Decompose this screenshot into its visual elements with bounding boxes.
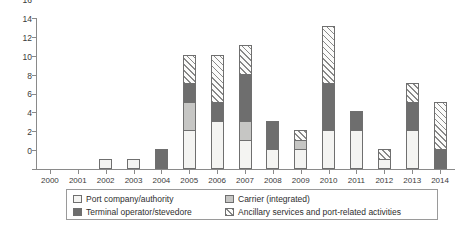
bar-segment-terminal	[183, 83, 196, 103]
bar-column	[239, 46, 252, 169]
chart-legend: Port company/authority Carrier (integrat…	[66, 189, 438, 220]
bar-segment-port	[378, 159, 391, 169]
legend-item-terminal-operator-stevedore: Terminal operator/stevedore	[73, 208, 225, 217]
x-axis-tick-label: 2014	[426, 176, 454, 185]
x-axis-tick-mark	[78, 170, 79, 174]
bar-segment-ancillary	[322, 26, 335, 84]
y-axis-tick-mark	[32, 94, 36, 95]
x-axis-tick-label: 2001	[64, 176, 92, 185]
x-axis-tick-label: 2012	[370, 176, 398, 185]
bar-segment-port	[239, 140, 252, 169]
x-axis-tick-label: 2013	[398, 176, 426, 185]
bar-column	[155, 150, 168, 169]
x-axis-tick-mark	[301, 170, 302, 174]
x-axis-tick-label: 2007	[231, 176, 259, 185]
bar-segment-terminal	[406, 102, 419, 131]
x-axis-tick-mark	[440, 170, 441, 174]
bar-column	[266, 122, 279, 169]
bar-segment-port	[211, 121, 224, 169]
legend-label: Carrier (integrated)	[238, 195, 310, 204]
bar-segment-port	[266, 149, 279, 169]
legend-item-ancillary-services: Ancillary services and port-related acti…	[225, 208, 401, 217]
bar-segment-ancillary	[406, 83, 419, 103]
x-axis-tick-mark	[106, 170, 107, 174]
legend-row: Port company/authority Carrier (integrat…	[73, 193, 435, 205]
stacked-bar-chart: 0246810121416 Port company/authority Car…	[0, 0, 461, 235]
x-axis-tick-label: 2000	[36, 176, 64, 185]
x-axis-tick-mark	[273, 170, 274, 174]
y-axis-tick-mark	[32, 37, 36, 38]
y-axis-tick-mark	[32, 112, 36, 113]
bar-column	[322, 27, 335, 169]
y-axis-tick-mark	[32, 18, 36, 19]
y-axis-tick-mark	[32, 131, 36, 132]
x-axis-tick-label: 2005	[175, 176, 203, 185]
x-axis-tick-label: 2003	[120, 176, 148, 185]
bar-segment-terminal	[211, 102, 224, 122]
legend-item-carrier-integrated: Carrier (integrated)	[225, 195, 310, 204]
bar-column	[434, 103, 447, 169]
bar-segment-ancillary	[434, 102, 447, 150]
x-axis-tick-label: 2008	[259, 176, 287, 185]
bar-segment-carrier	[183, 102, 196, 131]
light-gray-square-icon	[225, 195, 234, 203]
bar-segment-port	[406, 130, 419, 169]
x-axis-tick-mark	[412, 170, 413, 174]
bar-segment-terminal	[350, 111, 363, 131]
bar-segment-ancillary	[294, 130, 307, 140]
x-axis-tick-mark	[217, 170, 218, 174]
y-axis-tick-mark	[32, 75, 36, 76]
x-axis-tick-label: 2006	[203, 176, 231, 185]
bar-segment-port	[183, 130, 196, 169]
legend-item-port-company-authority: Port company/authority	[73, 195, 225, 204]
x-axis-tick-mark	[50, 170, 51, 174]
bar-column	[127, 160, 140, 169]
y-axis-ticks: 0246810121416	[0, 0, 32, 151]
bar-column	[211, 56, 224, 169]
bar-segment-terminal	[322, 83, 335, 131]
dark-gray-square-icon	[73, 208, 82, 216]
bar-column	[294, 131, 307, 169]
x-axis-tick-mark	[329, 170, 330, 174]
bar-segment-ancillary	[211, 55, 224, 103]
bar-segment-port	[322, 130, 335, 169]
y-axis-tick-mark	[32, 150, 36, 151]
y-axis-tick-label: 6	[10, 90, 32, 99]
bar-segment-terminal	[239, 74, 252, 122]
y-axis-tick-mark	[32, 169, 36, 170]
bar-segment-ancillary	[183, 55, 196, 84]
y-axis-tick-label: 2	[10, 128, 32, 137]
y-axis-tick-label: 4	[10, 109, 32, 118]
x-axis-tick-mark	[356, 170, 357, 174]
x-axis-tick-label: 2010	[315, 176, 343, 185]
legend-label: Ancillary services and port-related acti…	[238, 208, 401, 217]
x-axis-tick-mark	[189, 170, 190, 174]
y-axis-tick-label: 0	[10, 147, 32, 156]
bar-segment-ancillary	[378, 149, 391, 159]
hatched-square-icon	[225, 208, 234, 216]
y-axis-tick-label: 10	[10, 53, 32, 62]
legend-label: Port company/authority	[86, 195, 173, 204]
bar-segment-terminal	[155, 149, 168, 169]
bar-column	[183, 56, 196, 169]
x-axis-tick-mark	[161, 170, 162, 174]
bar-segment-terminal	[434, 149, 447, 169]
x-axis-tick-label: 2011	[342, 176, 370, 185]
y-axis-tick-label: 12	[10, 34, 32, 43]
bar-segment-port	[294, 149, 307, 169]
x-axis-tick-mark	[245, 170, 246, 174]
bar-segment-terminal	[266, 121, 279, 150]
x-axis-tick-label: 2009	[287, 176, 315, 185]
x-axis-tick-mark	[134, 170, 135, 174]
bar-segment-port	[99, 159, 112, 169]
y-axis-tick-label: 16	[10, 0, 32, 5]
legend-row: Terminal operator/stevedore Ancillary se…	[73, 206, 435, 218]
bar-column	[99, 160, 112, 169]
legend-label: Terminal operator/stevedore	[86, 208, 192, 217]
bar-segment-port	[127, 159, 140, 169]
x-axis-tick-mark	[384, 170, 385, 174]
plot-area	[36, 18, 454, 169]
bar-column	[350, 112, 363, 169]
x-axis-tick-label: 2002	[92, 176, 120, 185]
y-axis-tick-label: 14	[10, 15, 32, 24]
